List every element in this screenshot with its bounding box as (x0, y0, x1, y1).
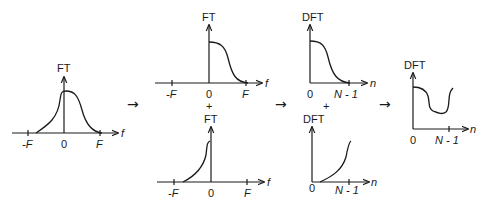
dft-positive-curve (310, 41, 350, 83)
y-label: DFT (404, 59, 426, 71)
arrow-1: → (127, 96, 139, 112)
tick-label-zero: 0 (309, 182, 315, 194)
plus-sign-dft: + (323, 100, 329, 112)
y-label: DFT (302, 11, 324, 23)
dft-negative-curve (320, 141, 351, 182)
x-label: n (371, 176, 377, 188)
tick-label-n-minus-1: N - 1 (334, 88, 358, 100)
tick-label-neg-f: -F (166, 88, 178, 100)
dft-combined-curve (413, 87, 453, 114)
tick-label-zero: 0 (410, 134, 416, 146)
tick-label-n-minus-1: N - 1 (435, 134, 459, 146)
arrow-2: → (275, 96, 287, 112)
ft-curve (36, 91, 102, 133)
x-label: f (121, 127, 125, 139)
y-label: FT (204, 113, 218, 125)
ft-positive-curve (209, 42, 248, 83)
tick-label-neg-f: -F (168, 187, 180, 199)
tick-label-pos-f: F (242, 88, 250, 100)
y-label: FT (202, 11, 216, 23)
plus-sign-ft: + (206, 100, 212, 112)
x-label: f (267, 176, 271, 188)
panel-ft-positive: FT f -F 0 F (155, 11, 269, 100)
tick-label-pos-f: F (244, 187, 252, 199)
panel-ft-negative: FT f -F 0 F (157, 113, 271, 199)
tick-label-n-minus-1: N - 1 (335, 184, 359, 196)
x-label: n (470, 123, 476, 135)
panel-ft-full: FT f -F 0 F (12, 62, 125, 150)
y-label: DFT (303, 113, 325, 125)
x-label: n (370, 77, 376, 89)
tick-label-pos-f: F (96, 138, 104, 150)
ft-negative-curve (183, 141, 210, 182)
tick-label-zero: 0 (307, 88, 313, 100)
x-label: f (265, 77, 269, 89)
panel-dft-negative: DFT n 0 N - 1 (303, 113, 377, 196)
panel-dft-combined: DFT n 0 N - 1 (404, 59, 476, 146)
y-label: FT (57, 62, 71, 74)
ft-to-dft-diagram: FT f -F 0 F → FT f -F 0 F + FT f -F 0 F … (0, 0, 488, 210)
tick-label-zero: 0 (206, 88, 212, 100)
tick-label-zero: 0 (61, 138, 67, 150)
arrow-3: → (379, 96, 391, 112)
panel-dft-positive: DFT n 0 N - 1 (302, 11, 376, 100)
tick-label-neg-f: -F (22, 138, 34, 150)
tick-label-zero: 0 (208, 187, 214, 199)
